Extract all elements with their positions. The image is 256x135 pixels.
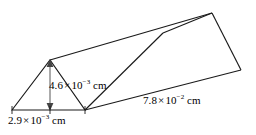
base-dimension-label: 2.9×10−3 cm	[8, 115, 66, 126]
base-unit: cm	[52, 114, 66, 126]
length-base: 10	[165, 94, 176, 106]
base-base: 10	[30, 114, 41, 126]
height-base: 10	[71, 79, 82, 91]
length-dimension-label: 7.8×10−2 cm	[143, 95, 201, 106]
height-mantissa: 4.6	[49, 79, 63, 91]
base-mantissa: 2.9	[8, 114, 22, 126]
length-exponent: −2	[177, 93, 185, 101]
height-dimension-label: 4.6×10−3 cm	[49, 80, 107, 91]
height-unit: cm	[93, 79, 107, 91]
geometry-figure: 4.6×10−3 cm 2.9×10−3 cm 7.8×10−2 cm	[0, 0, 256, 135]
back-face-right-edge	[212, 13, 241, 70]
length-mantissa: 7.8	[143, 94, 157, 106]
top-ridge-edge	[50, 13, 212, 60]
height-exponent: −3	[83, 78, 91, 86]
length-unit: cm	[187, 94, 201, 106]
back-face-top-edge	[163, 13, 212, 33]
base-exponent: −3	[42, 113, 50, 121]
